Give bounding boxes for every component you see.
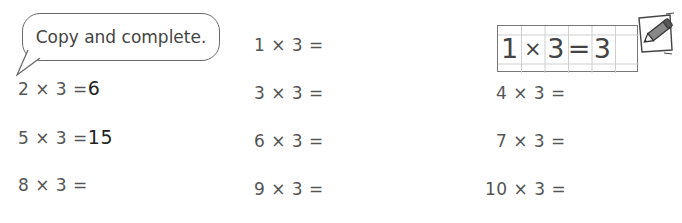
equation-text: 8 × 3 =	[18, 175, 88, 195]
equation-4x3: 4 × 3 =	[496, 83, 566, 103]
equation-7x3: 7 × 3 =	[496, 131, 566, 151]
example-cell: =	[568, 33, 591, 64]
equation-text: 7 × 3 =	[496, 131, 566, 151]
equation-text: 6 × 3 =	[254, 131, 324, 151]
equation-text: 10 × 3 =	[485, 179, 566, 199]
equation-text: 5 × 3 =	[18, 128, 88, 148]
example-cell: 1	[498, 33, 521, 64]
equation-1x3: 1 × 3 =	[254, 35, 324, 55]
pencil-writing-icon	[636, 12, 678, 58]
equation-text: 1 × 3 =	[254, 35, 324, 55]
example-box: 1 × 3 = 3	[497, 25, 638, 72]
example-cell: 3	[591, 33, 614, 64]
handwritten-answer: 6	[88, 77, 101, 99]
equation-10x3: 10 × 3 =	[485, 179, 566, 199]
bubble-tail	[16, 50, 46, 78]
equation-text: 4 × 3 =	[496, 83, 566, 103]
equation-8x3: 8 × 3 =	[18, 175, 88, 195]
equation-9x3: 9 × 3 =	[254, 179, 324, 199]
equation-text: 2 × 3 =	[18, 79, 88, 99]
handwritten-answer: 15	[88, 126, 113, 148]
example-cell: ×	[521, 37, 544, 61]
equation-text: 9 × 3 =	[254, 179, 324, 199]
equation-3x3: 3 × 3 =	[254, 83, 324, 103]
equation-6x3: 6 × 3 =	[254, 131, 324, 151]
example-cell: 3	[544, 33, 567, 64]
example-equation: 1 × 3 = 3	[498, 26, 637, 71]
equation-text: 3 × 3 =	[254, 83, 324, 103]
instruction-text: Copy and complete.	[36, 27, 207, 47]
equation-5x3: 5 × 3 =15	[18, 126, 113, 148]
instruction-bubble: Copy and complete.	[22, 13, 220, 61]
equation-2x3: 2 × 3 =6	[18, 77, 100, 99]
